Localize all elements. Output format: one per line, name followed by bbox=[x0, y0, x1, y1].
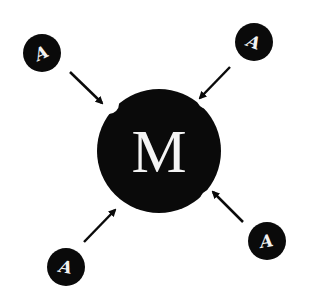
arrow-top-right bbox=[200, 67, 230, 98]
hub-diagram: M A A A A bbox=[0, 0, 310, 301]
satellite-node-top-left: A bbox=[23, 34, 61, 72]
arrow-bottom-right bbox=[213, 192, 243, 222]
satellite-label: A bbox=[259, 231, 275, 250]
satellite-node-top-right: A bbox=[235, 23, 273, 61]
center-node-label: M bbox=[131, 120, 186, 182]
satellite-label: A bbox=[32, 43, 51, 64]
satellite-label: A bbox=[58, 257, 74, 276]
arrow-bottom-left bbox=[84, 210, 115, 242]
arrow-top-left bbox=[70, 72, 102, 103]
satellite-label: A bbox=[245, 32, 263, 52]
satellite-node-bottom-right: A bbox=[248, 222, 286, 260]
satellite-node-bottom-left: A bbox=[47, 248, 85, 286]
